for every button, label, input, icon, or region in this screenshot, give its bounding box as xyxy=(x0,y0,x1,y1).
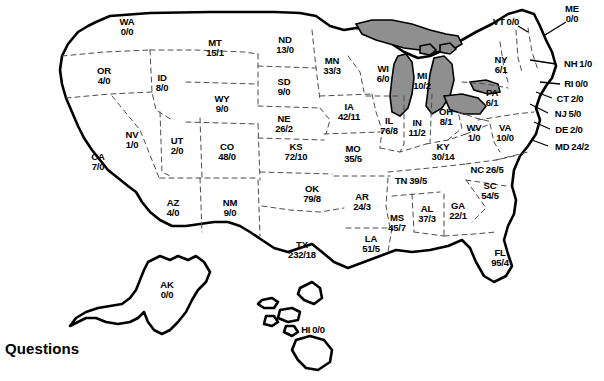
us-map-svg xyxy=(0,0,604,381)
map-outline-group xyxy=(60,10,556,370)
hawaii-island-5 xyxy=(298,282,322,304)
leader-me xyxy=(545,22,566,35)
hawaii-island-3 xyxy=(264,316,278,326)
leader-md xyxy=(532,140,548,146)
hawaii-island-1 xyxy=(258,298,278,308)
hawaii-island-2 xyxy=(278,308,300,322)
questions-heading: Questions xyxy=(5,340,79,357)
us-map: WA0/0OR4/0ID8/0MT15/1WY9/0ND13/0SD9/0NE2… xyxy=(0,0,604,381)
alaska-outline xyxy=(70,256,210,334)
hawaii-island-4 xyxy=(284,326,298,336)
hawaii-island-big xyxy=(292,336,332,370)
